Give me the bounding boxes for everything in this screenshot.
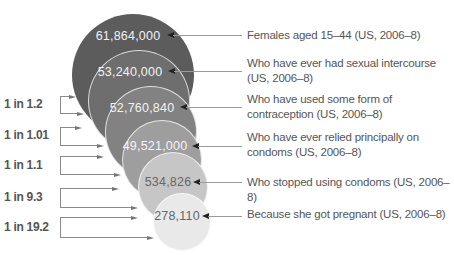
ratio-label: 1 in 1.2	[4, 97, 42, 111]
arrow-right-icon	[69, 95, 76, 99]
value-label: 53,240,000	[98, 65, 163, 79]
bracket	[60, 96, 68, 114]
value-label: 61,864,000	[96, 29, 161, 43]
arrow-right-icon	[77, 112, 84, 116]
arrow-right-icon	[75, 126, 82, 130]
description-label: Who have ever had sexual intercourse (US…	[247, 56, 452, 86]
bracket-line	[67, 237, 148, 238]
arrow-right-icon	[112, 187, 119, 191]
bracket-line	[67, 145, 98, 146]
ratio-label: 1 in 9.3	[4, 190, 42, 204]
description-label: Who have ever relied principally on cond…	[247, 130, 452, 160]
bracket-line	[67, 174, 115, 175]
value-label: 278,110	[154, 209, 200, 223]
bracket	[60, 127, 68, 146]
bracket-line	[67, 156, 98, 157]
condom-funnel-diagram: 61,864,00053,240,00052,760,84049,521,000…	[0, 0, 454, 255]
bracket-line	[67, 188, 113, 189]
bracket-line	[67, 217, 132, 218]
leader-line	[173, 35, 242, 36]
arrow-right-icon	[97, 144, 104, 148]
ratio-label: 1 in 19.2	[4, 220, 49, 234]
leader-line	[198, 146, 242, 147]
ratio-label: 1 in 1.01	[4, 128, 49, 142]
value-label: 534,826	[145, 175, 192, 189]
arrow-right-icon	[131, 216, 138, 220]
arrow-right-icon	[97, 155, 104, 159]
arrow-right-icon	[131, 206, 138, 210]
leader-line	[208, 216, 242, 217]
description-label: Because she got pregnant (US, 2006–8)	[247, 207, 452, 222]
bracket	[60, 188, 68, 208]
bracket-line	[67, 207, 132, 208]
arrow-right-icon	[147, 236, 154, 240]
description-label: Who stopped using condoms (US, 2006–8)	[247, 175, 452, 205]
description-label: Females aged 15–44 (US, 2006–8)	[247, 28, 452, 43]
description-label: Who have used some form of contraception…	[247, 92, 452, 122]
leader-line	[174, 71, 242, 72]
leader-line	[199, 182, 242, 183]
arrow-right-icon	[114, 173, 121, 177]
value-label: 52,760,840	[110, 101, 175, 115]
bracket	[60, 156, 68, 175]
value-label: 49,521,000	[123, 139, 188, 153]
bracket	[60, 217, 68, 238]
ratio-label: 1 in 1.1	[4, 158, 42, 172]
leader-line	[186, 107, 242, 108]
